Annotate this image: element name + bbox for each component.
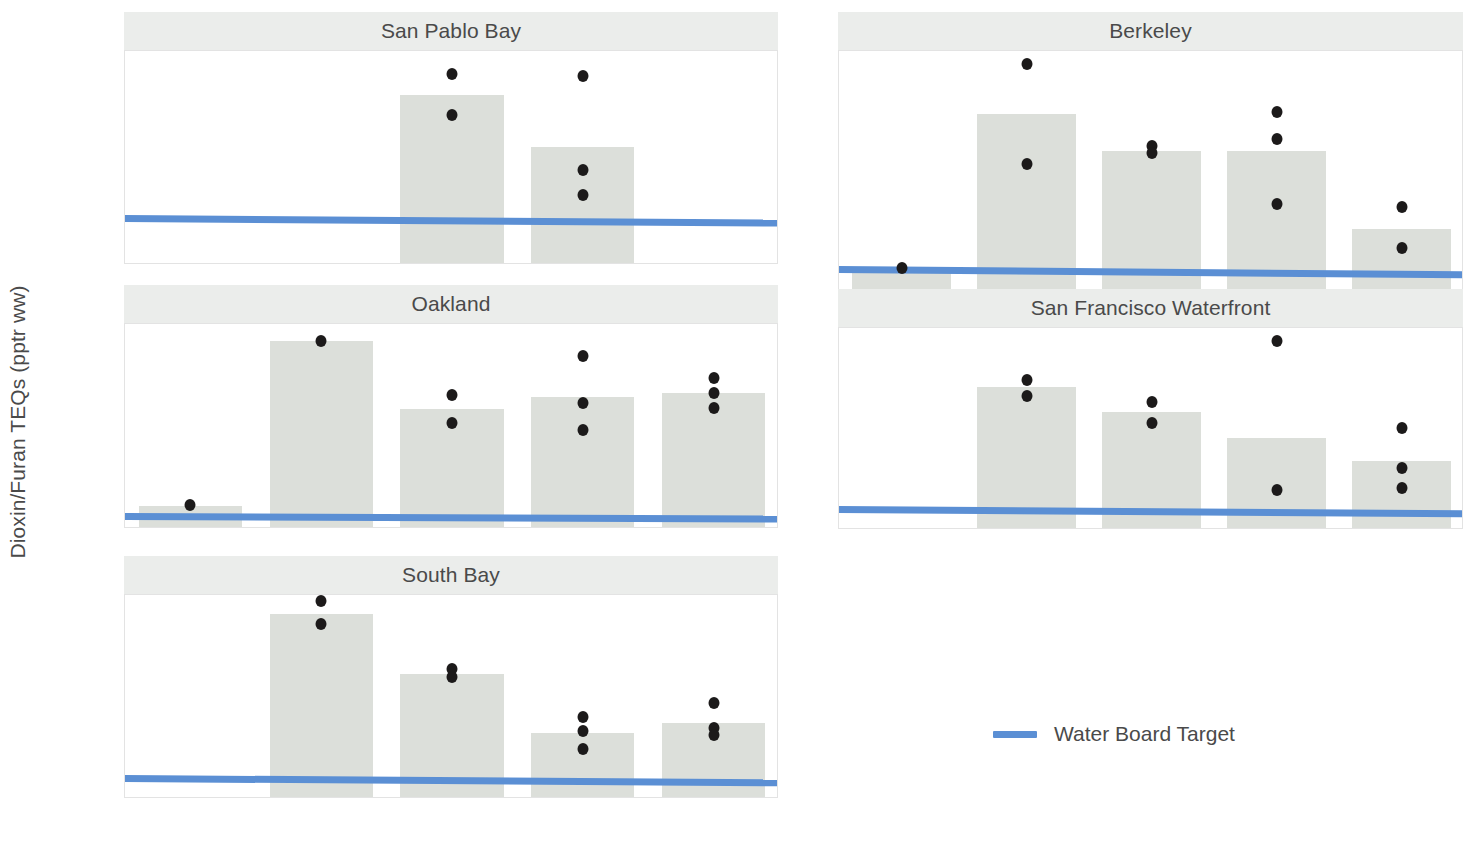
plot-area-san-francisco-waterfront: 0.00.51.019942000200920142019 <box>838 327 1463 529</box>
x-tick-mark-south-bay-2009 <box>451 797 454 798</box>
data-point-san-pablo-bay-2014-2 <box>577 164 588 176</box>
facet-panel-south-bay: South Bay0.00.51.019942000200920142019 <box>124 556 778 798</box>
y-tick-mark-san-francisco-waterfront-1 <box>838 457 839 460</box>
data-point-san-francisco-waterfront-2014-1 <box>1271 335 1282 347</box>
x-tick-mark-south-bay-2014 <box>582 797 585 798</box>
y-tick-mark-berkeley-2 <box>838 114 839 117</box>
y-tick-label-south-bay-0: 0.0 <box>124 788 125 799</box>
data-point-berkeley-2000-1 <box>1021 58 1032 70</box>
data-point-san-francisco-waterfront-2019-1 <box>1396 422 1407 434</box>
data-point-south-bay-2014-1 <box>577 711 588 723</box>
data-point-oakland-2019-1 <box>708 372 719 384</box>
data-point-san-pablo-bay-2014-3 <box>577 189 588 201</box>
data-point-oakland-2019-2 <box>708 387 719 399</box>
y-tick-mark-oakland-4 <box>124 358 125 361</box>
plot-area-south-bay: 0.00.51.019942000200920142019 <box>124 594 778 798</box>
x-tick-mark-south-bay-2019 <box>712 797 715 798</box>
data-point-berkeley-1994-1 <box>896 262 907 274</box>
data-point-south-bay-2014-3 <box>577 743 588 755</box>
bar-berkeley-2019 <box>1352 229 1451 294</box>
data-point-san-francisco-waterfront-2009-1 <box>1146 396 1157 408</box>
data-point-berkeley-2000-2 <box>1021 158 1032 170</box>
data-point-san-francisco-waterfront-2014-2 <box>1271 484 1282 496</box>
facet-title-berkeley: Berkeley <box>1109 19 1192 43</box>
facet-strip-oakland: Oakland <box>124 285 778 323</box>
data-point-oakland-2014-1 <box>577 350 588 362</box>
plot-area-oakland: 0.00.51.01.52.0 <box>124 323 778 528</box>
facet-title-oakland: Oakland <box>412 292 491 316</box>
data-point-san-pablo-bay-2009-1 <box>447 68 458 80</box>
facet-panel-oakland: Oakland0.00.51.01.52.0 <box>124 285 778 528</box>
data-point-south-bay-2019-3 <box>708 729 719 741</box>
data-point-berkeley-2014-2 <box>1271 133 1282 145</box>
y-tick-mark-oakland-2 <box>124 443 125 446</box>
data-point-oakland-2019-3 <box>708 402 719 414</box>
legend-label-water-board-target: Water Board Target <box>1054 722 1235 746</box>
x-tick-mark-san-francisco-waterfront-2019 <box>1400 528 1403 529</box>
data-point-berkeley-2009-2 <box>1146 147 1157 159</box>
facet-title-san-pablo-bay: San Pablo Bay <box>381 19 521 43</box>
data-point-berkeley-2014-3 <box>1271 198 1282 210</box>
y-tick-mark-san-francisco-waterfront-2 <box>838 384 839 387</box>
facet-title-south-bay: South Bay <box>402 563 500 587</box>
bar-oakland-2014 <box>531 397 634 528</box>
y-tick-label-oakland-0: 0.0 <box>124 518 125 529</box>
data-point-oakland-1994-1 <box>185 499 196 511</box>
plot-area-berkeley: 0.00.51.0 <box>838 50 1463 294</box>
water-board-target-line-swatch <box>993 731 1037 738</box>
y-tick-mark-san-pablo-bay-3 <box>124 68 125 71</box>
data-point-berkeley-2019-2 <box>1396 242 1407 254</box>
data-point-oakland-2009-1 <box>447 389 458 401</box>
data-point-berkeley-2019-1 <box>1396 201 1407 213</box>
x-tick-mark-south-bay-2000 <box>320 797 323 798</box>
y-tick-mark-berkeley-1 <box>838 204 839 207</box>
y-tick-mark-south-bay-2 <box>124 652 125 655</box>
bar-south-bay-2000 <box>270 614 373 798</box>
facet-panel-san-francisco-waterfront: San Francisco Waterfront0.00.51.01994200… <box>838 289 1463 529</box>
facet-panel-san-pablo-bay: San Pablo Bay0.00.20.40.6 <box>124 12 778 264</box>
y-tick-mark-san-pablo-bay-2 <box>124 133 125 136</box>
data-point-oakland-2009-2 <box>447 417 458 429</box>
y-axis-title: Dioxin/Furan TEQs (pptr ww) <box>0 0 38 844</box>
data-point-san-francisco-waterfront-2019-2 <box>1396 462 1407 474</box>
data-point-south-bay-2000-2 <box>316 618 327 630</box>
x-tick-mark-san-francisco-waterfront-2009 <box>1150 528 1153 529</box>
facet-strip-berkeley: Berkeley <box>838 12 1463 50</box>
data-point-san-francisco-waterfront-2009-2 <box>1146 417 1157 429</box>
data-point-oakland-2014-2 <box>577 397 588 409</box>
plot-area-san-pablo-bay: 0.00.20.40.6 <box>124 50 778 264</box>
facet-title-san-francisco-waterfront: San Francisco Waterfront <box>1031 296 1271 320</box>
data-point-oakland-2000-1 <box>316 335 327 347</box>
data-point-south-bay-2014-2 <box>577 725 588 737</box>
data-point-san-francisco-waterfront-2000-2 <box>1021 390 1032 402</box>
y-tick-label-san-francisco-waterfront-0: 0.0 <box>838 519 839 530</box>
y-tick-label-san-pablo-bay-0: 0.0 <box>124 254 125 265</box>
y-tick-mark-oakland-1 <box>124 485 125 488</box>
data-point-south-bay-2009-2 <box>447 671 458 683</box>
facet-strip-san-pablo-bay: San Pablo Bay <box>124 12 778 50</box>
data-point-south-bay-2019-1 <box>708 697 719 709</box>
data-point-south-bay-2000-1 <box>316 595 327 607</box>
data-point-san-francisco-waterfront-2019-3 <box>1396 482 1407 494</box>
data-point-oakland-2014-3 <box>577 424 588 436</box>
bar-oakland-2000 <box>270 341 373 528</box>
x-tick-mark-san-francisco-waterfront-2014 <box>1275 528 1278 529</box>
facet-strip-south-bay: South Bay <box>124 556 778 594</box>
y-tick-mark-oakland-3 <box>124 401 125 404</box>
facet-panel-berkeley: Berkeley0.00.51.0 <box>838 12 1463 294</box>
data-point-berkeley-2014-1 <box>1271 106 1282 118</box>
x-tick-mark-san-francisco-waterfront-1994 <box>900 528 903 529</box>
y-tick-mark-south-bay-1 <box>124 725 125 728</box>
x-tick-mark-south-bay-1994 <box>189 797 192 798</box>
chart-legend: Water Board Target <box>993 722 1235 746</box>
facet-strip-san-francisco-waterfront: San Francisco Waterfront <box>838 289 1463 327</box>
y-tick-mark-san-pablo-bay-1 <box>124 198 125 201</box>
data-point-san-pablo-bay-2009-2 <box>447 109 458 121</box>
data-point-san-pablo-bay-2014-1 <box>577 70 588 82</box>
chart-figure: Dioxin/Furan TEQs (pptr ww) Water Board … <box>0 0 1463 844</box>
x-tick-mark-san-francisco-waterfront-2000 <box>1025 528 1028 529</box>
data-point-san-francisco-waterfront-2000-1 <box>1021 374 1032 386</box>
